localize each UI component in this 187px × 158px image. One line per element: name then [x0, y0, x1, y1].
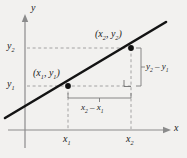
diagram-canvas: [0, 0, 187, 158]
run-bracket: [68, 93, 131, 98]
y-axis-arrowhead: [22, 14, 28, 22]
x-tick-x2-subscript: 2: [130, 139, 133, 146]
rise-bracket: [136, 48, 141, 86]
slope-diagram-figure: y x y2 y1 x1 x2 (x1, y1) (x2, y2) y2 – y…: [0, 0, 187, 158]
rise-annotation: y2 – y1: [146, 62, 169, 73]
point-1-marker: [65, 83, 71, 89]
x-tick-label-x2: x2: [126, 134, 134, 146]
y-tick-y1-subscript: 1: [11, 84, 14, 91]
point-1-label: (x1, y1): [33, 68, 60, 80]
point-2-marker: [128, 45, 134, 51]
y-tick-label-y1: y1: [7, 79, 15, 91]
x-tick-x1-subscript: 1: [67, 139, 70, 146]
x-tick-label-x1: x1: [63, 134, 71, 146]
run-annotation: x2 – x1: [81, 103, 104, 114]
y-tick-label-y2: y2: [7, 41, 15, 53]
point-2-label: (x2, y2): [95, 29, 122, 41]
y-tick-y2-subscript: 2: [11, 46, 14, 53]
x-axis-label: x: [174, 123, 178, 133]
rise-second-subscript: 1: [166, 67, 169, 73]
y-axis-label: y: [31, 3, 35, 13]
run-second-subscript: 1: [101, 108, 104, 114]
right-angle-mark: [124, 80, 131, 87]
x-axis-arrowhead: [163, 127, 171, 133]
